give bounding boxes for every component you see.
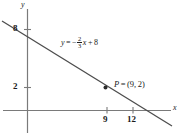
equation-equals: =: [66, 38, 71, 47]
equation-variable: x: [83, 38, 87, 47]
equation-sign: −: [72, 38, 77, 47]
x-axis-label: x: [173, 104, 177, 112]
equation-intercept: 8: [94, 38, 98, 47]
y-axis-label: y: [21, 1, 25, 9]
equation-plus: +: [88, 38, 93, 47]
equation-fraction: 23: [77, 36, 82, 51]
equation-denominator: 3: [77, 42, 82, 50]
tick-label-x-9: 9: [103, 115, 108, 124]
equation-lhs: y: [61, 38, 65, 47]
point-label: P=(9,2): [114, 80, 145, 89]
point-name: P: [114, 79, 119, 89]
equation-numerator: 2: [77, 36, 82, 43]
tick-label-x-12: 12: [127, 115, 136, 124]
point-marker-p: [104, 86, 108, 90]
point-close-paren: ): [142, 79, 145, 89]
point-equals: =: [121, 79, 126, 89]
plot-canvas: [0, 0, 183, 134]
point-comma: ,: [134, 79, 136, 89]
coordinate-plane-figure: y x 8 2 9 12 y=−23x+8 P=(9,2): [0, 0, 183, 134]
equation-label: y=−23x+8: [61, 36, 98, 51]
tick-label-y-2: 2: [13, 82, 18, 91]
tick-label-y-8: 8: [13, 24, 18, 33]
